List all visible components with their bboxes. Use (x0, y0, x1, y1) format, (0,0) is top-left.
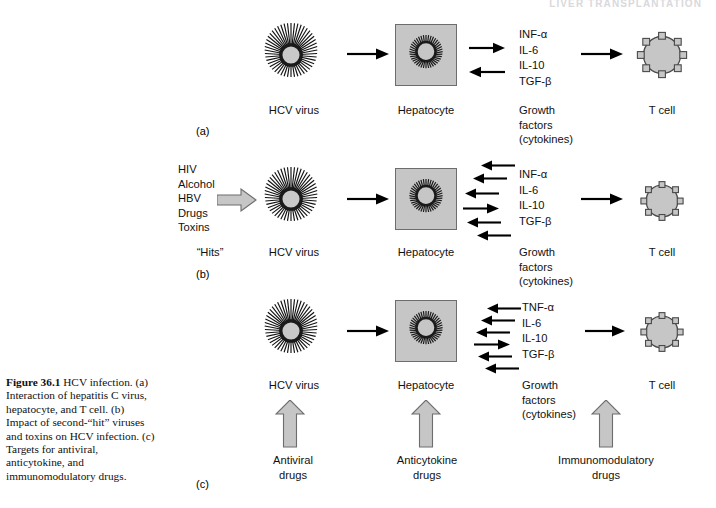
growth-factors-line: (cytokines) (522, 407, 576, 422)
flow-arrow-virus-to-hepatocyte (347, 48, 389, 60)
growth-factors-line: (cytokines) (519, 132, 573, 147)
flow-arrow-virus-to-hepatocyte (347, 193, 389, 205)
growth-factors-label: Growth factors (cytokines) (519, 103, 573, 147)
figure-caption-text: HCV infection. (a) Interaction of hepati… (6, 376, 155, 482)
antiviral-drugs-block-arrow (275, 400, 305, 448)
growth-factors-line: factors (522, 393, 576, 408)
hits-item: Alcohol (178, 177, 215, 192)
tcell-label: T cell (627, 103, 697, 118)
anticytokine-drugs-line-1: Anticytokine (391, 453, 463, 468)
flow-arrow-cytokines-to-tcell (581, 48, 623, 60)
cytokine-item: IL-10 (519, 198, 552, 214)
growth-factors-label: Growth factors (cytokines) (519, 245, 573, 289)
growth-factors-line: Growth (522, 378, 576, 393)
tcell-icon (638, 177, 686, 225)
tcell-label: T cell (627, 378, 697, 393)
cytokine-list: TNF-α IL-6 IL-10 TGF-β (522, 300, 555, 362)
hits-block-arrow (217, 188, 257, 212)
hepatocyte-label: Hepatocyte (391, 103, 461, 118)
panel-letter-c: (c) (196, 478, 209, 490)
growth-factors-line: Growth (519, 245, 573, 260)
exchange-arrow-left (469, 66, 505, 78)
antiviral-drugs-line-1: Antiviral (258, 453, 328, 468)
figure-caption: Figure 36.1 HCV infection. (a) Interacti… (6, 376, 156, 483)
cytokine-item: TNF-α (522, 300, 555, 316)
hepatocyte-icon (395, 168, 457, 230)
hcv-virus-icon (258, 22, 324, 88)
exchange-arrow-left (465, 188, 499, 199)
antiviral-drugs-label: Antiviral drugs (258, 453, 328, 482)
exchange-arrow-left (476, 327, 510, 338)
hits-item: HIV (178, 162, 215, 177)
tcell-icon (634, 27, 690, 83)
hcv-virus-icon (258, 298, 324, 364)
cytokine-item: IL-6 (519, 183, 552, 199)
cytokine-item: TGF-β (519, 74, 552, 90)
hepatocyte-icon (395, 24, 457, 86)
immunomodulatory-drugs-label: Immunomodulatory drugs (545, 453, 667, 482)
figure-hcv-infection: LIVER TRANSPLANTATION Figure 36.1 HCV in… (0, 0, 716, 508)
hcv-virus-label: HCV virus (259, 378, 329, 393)
anticytokine-drugs-label: Anticytokine drugs (391, 453, 463, 482)
panel-letter-b: (b) (196, 268, 209, 280)
flow-arrow-cytokines-to-tcell (585, 325, 625, 337)
growth-factors-line: (cytokines) (519, 274, 573, 289)
anticytokine-drugs-line-2: drugs (391, 468, 463, 483)
hits-item: HBV (178, 191, 215, 206)
exchange-arrow-left (473, 173, 507, 184)
hcv-virus-label: HCV virus (259, 245, 329, 260)
antiviral-drugs-line-2: drugs (258, 468, 328, 483)
hits-item: Drugs (178, 206, 215, 221)
exchange-arrow-right (474, 339, 510, 350)
hits-list: HIV Alcohol HBV Drugs Toxins (178, 162, 215, 235)
hits-item: Toxins (178, 220, 215, 235)
exchange-arrow-right (463, 203, 499, 214)
tcell-icon (638, 308, 686, 356)
cytokine-item: IL-6 (519, 43, 552, 59)
panel-letter-a: (a) (196, 125, 209, 137)
exchange-arrow-left (487, 303, 521, 314)
exchange-arrow-left (478, 351, 512, 362)
hcv-virus-icon (258, 166, 324, 232)
cytokine-item: IL-10 (519, 58, 552, 74)
cytokine-item: IL-6 (522, 316, 555, 332)
exchange-arrow-left (485, 363, 519, 374)
tcell-label: T cell (627, 245, 697, 260)
cytokine-item: IL-10 (522, 331, 555, 347)
cytokine-item: TGF-β (522, 347, 555, 363)
immunomodulatory-drugs-line-1: Immunomodulatory (545, 453, 667, 468)
growth-factors-line: Growth (519, 103, 573, 118)
growth-factors-label: Growth factors (cytokines) (522, 378, 576, 422)
growth-factors-line: factors (519, 118, 573, 133)
cytokine-item: TGF-β (519, 214, 552, 230)
flow-arrow-virus-to-hepatocyte (347, 325, 389, 337)
cytokine-item: INF-α (519, 27, 552, 43)
figure-number: Figure 36.1 (6, 376, 60, 388)
cytokine-list: INF-α IL-6 IL-10 TGF-β (519, 27, 552, 89)
exchange-arrow-left (481, 160, 515, 171)
cytokine-list: INF-α IL-6 IL-10 TGF-β (519, 167, 552, 229)
exchange-arrow-left (477, 230, 511, 241)
hcv-virus-label: HCV virus (259, 103, 329, 118)
running-head: LIVER TRANSPLANTATION (549, 0, 702, 9)
immunomodulatory-drugs-block-arrow (591, 400, 621, 448)
growth-factors-line: factors (519, 260, 573, 275)
hepatocyte-label: Hepatocyte (391, 245, 461, 260)
exchange-arrow-right (469, 42, 505, 54)
hits-label: “Hits” (180, 245, 240, 260)
exchange-arrow-left (467, 217, 501, 228)
hepatocyte-label: Hepatocyte (391, 378, 461, 393)
exchange-arrow-left (481, 315, 515, 326)
hepatocyte-icon (395, 300, 457, 362)
immunomodulatory-drugs-line-2: drugs (545, 468, 667, 483)
anticytokine-drugs-block-arrow (411, 400, 441, 448)
flow-arrow-cytokines-to-tcell (581, 193, 623, 205)
cytokine-item: INF-α (519, 167, 552, 183)
